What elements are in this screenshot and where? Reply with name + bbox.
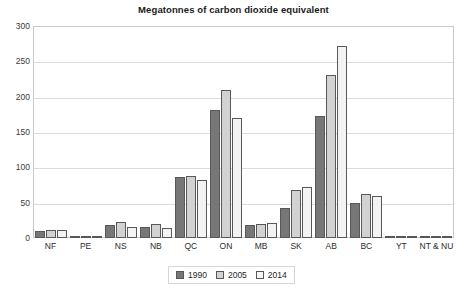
bar-group [419,26,454,238]
y-tick-label: 100 [2,162,30,172]
bar-QC-1990 [175,177,185,238]
x-tick-label: NF [45,241,56,251]
y-tick-label: 200 [2,92,30,102]
bar-group [244,26,279,238]
bar-NS-1990 [105,225,115,238]
bar-group [208,26,243,238]
bar-SK-1990 [280,208,290,238]
bar-chart: Megatonnes of carbon dioxide equivalent … [0,0,467,299]
bar-ON-2005 [221,90,231,238]
bar-NTNU-1990 [420,236,430,238]
y-tick-label: 250 [2,56,30,66]
y-axis: 050100150200250300 [0,0,30,299]
bar-MB-2014 [267,223,277,238]
bar-PE-2005 [81,236,91,238]
bar-AB-2014 [337,46,347,238]
x-tick-label: QC [185,241,198,251]
y-tick-label: 150 [2,127,30,137]
bar-SK-2005 [291,190,301,238]
legend-item-2005[interactable]: 2005 [216,270,247,280]
bar-NB-2014 [162,228,172,238]
bar-NB-2005 [151,224,161,238]
bar-BC-1990 [350,203,360,238]
bars-layer [33,26,454,238]
legend-item-1990[interactable]: 1990 [176,270,207,280]
bar-MB-2005 [256,224,266,238]
bar-NF-2005 [46,230,56,238]
bar-group [349,26,384,238]
bar-PE-1990 [70,236,80,238]
bar-AB-1990 [315,116,325,238]
x-tick-label: NS [115,241,127,251]
bar-AB-2005 [326,75,336,238]
bar-BC-2014 [372,196,382,238]
x-tick-label: MB [255,241,268,251]
bar-NS-2014 [127,227,137,238]
bar-group [33,26,68,238]
bar-group [173,26,208,238]
chart-legend: 199020052014 [168,266,295,284]
bar-NS-2005 [116,222,126,238]
bar-NTNU-2014 [442,236,452,238]
bar-group [384,26,419,238]
legend-swatch-icon [256,271,264,279]
legend-swatch-icon [216,271,224,279]
y-tick-label: 0 [2,233,30,243]
bar-PE-2014 [92,236,102,238]
bar-QC-2014 [197,180,207,238]
bar-ON-1990 [210,110,220,238]
bar-group [68,26,103,238]
bar-group [138,26,173,238]
x-tick-label: SK [290,241,301,251]
y-tick-label: 300 [2,21,30,31]
bar-BC-2005 [361,194,371,238]
x-tick-label: AB [326,241,337,251]
x-tick-label: YT [396,241,407,251]
x-tick-label: PE [80,241,91,251]
y-tick-label: 50 [2,198,30,208]
legend-label: 2005 [228,270,247,280]
bar-SK-2014 [302,187,312,238]
bar-group [103,26,138,238]
bar-NTNU-2005 [431,236,441,238]
bar-YT-1990 [385,236,395,238]
bar-NF-2014 [57,230,67,238]
bar-YT-2014 [407,236,417,238]
bar-NB-1990 [140,227,150,238]
legend-label: 2014 [268,270,287,280]
x-tick-label: NT & NU [420,241,454,251]
bar-ON-2014 [232,118,242,238]
bar-group [314,26,349,238]
bar-MB-1990 [245,225,255,238]
legend-swatch-icon [176,271,184,279]
bar-QC-2005 [186,176,196,238]
legend-label: 1990 [188,270,207,280]
x-tick-label: NB [150,241,162,251]
x-tick-label: ON [220,241,233,251]
bar-YT-2005 [396,236,406,238]
legend-item-2014[interactable]: 2014 [256,270,287,280]
bar-group [279,26,314,238]
chart-title: Megatonnes of carbon dioxide equivalent [0,4,467,15]
bar-NF-1990 [35,231,45,238]
x-tick-label: BC [360,241,372,251]
